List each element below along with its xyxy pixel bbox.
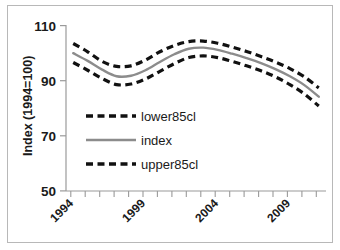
y-ticks	[60, 26, 66, 191]
y-tick-label-70: 70	[41, 129, 56, 144]
x-tick-label-1994: 1994	[47, 196, 76, 225]
y-axis-title: Index (1994=100)	[21, 56, 35, 156]
legend-label-lower85cl: lower85cl	[141, 109, 196, 124]
y-tick-label-90: 90	[41, 74, 56, 89]
x-tick-label-2009: 2009	[264, 196, 293, 225]
x-tick-label-1999: 1999	[119, 196, 148, 225]
legend-label-index: index	[141, 133, 173, 148]
legend-label-upper85cl: upper85cl	[141, 157, 198, 172]
x-ticks	[71, 191, 316, 197]
series-line-index	[73, 48, 319, 97]
y-tick-label-50: 50	[41, 184, 56, 199]
series-group	[73, 41, 319, 106]
chart-canvas: 110 90 70 50 Index (1994=100) 1994 1999 …	[8, 6, 334, 244]
y-tick-label-110: 110	[34, 19, 56, 34]
line-chart: 110 90 70 50 Index (1994=100) 1994 1999 …	[8, 6, 334, 244]
chart-frame: 110 90 70 50 Index (1994=100) 1994 1999 …	[7, 5, 333, 243]
x-tick-label-2004: 2004	[192, 196, 221, 225]
chart-legend: lower85cl index upper85cl	[86, 109, 198, 172]
